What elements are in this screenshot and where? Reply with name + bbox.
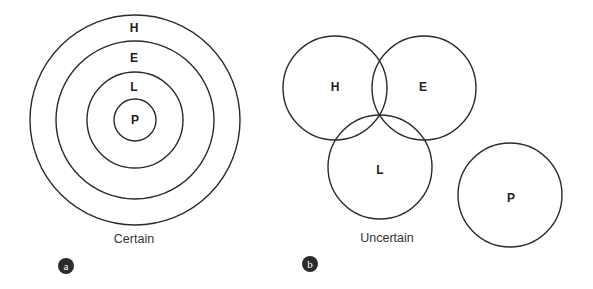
- label-a-l: L: [130, 80, 137, 94]
- badge-a-label: a: [64, 260, 69, 272]
- caption-certain: Certain: [114, 232, 154, 246]
- caption-uncertain: Uncertain: [360, 231, 414, 245]
- label-b-l: L: [376, 163, 383, 177]
- badge-a: a: [58, 258, 74, 274]
- label-a-h: H: [130, 21, 139, 35]
- label-b-e: E: [419, 80, 427, 94]
- panel-b-uncertain: H E L P Uncertain b: [283, 36, 562, 272]
- label-a-e: E: [130, 51, 138, 65]
- label-b-h: H: [331, 80, 340, 94]
- badge-b: b: [302, 256, 318, 272]
- diagram-canvas: H E L P Certain a H E L P Uncertain b: [0, 0, 593, 289]
- panel-a-certain: H E L P Certain a: [30, 15, 240, 274]
- label-b-p: P: [507, 191, 515, 205]
- badge-b-label: b: [307, 258, 313, 270]
- label-a-p: P: [131, 113, 139, 127]
